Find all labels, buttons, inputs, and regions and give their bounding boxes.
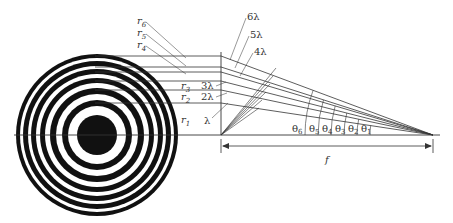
path-difference-line (221, 76, 273, 135)
path-difference-line (221, 100, 262, 135)
leader-line (146, 22, 186, 58)
path-difference-line (221, 68, 276, 135)
path-difference-label: 5λ (250, 29, 263, 40)
leader-line (240, 53, 253, 76)
radius-label: r4 (137, 39, 146, 53)
path-difference-label: λ (204, 115, 211, 126)
path-difference-label: 4λ (254, 46, 267, 57)
focal-length-arrow (221, 139, 433, 153)
angle-label: θ5 (309, 123, 320, 136)
arrowhead-right-icon (425, 143, 432, 149)
leader-line (216, 93, 227, 97)
leader-line (212, 103, 228, 118)
angle-label: θ6 (292, 123, 303, 136)
zone-plate-diagram: r6r5r4r3r2r1θ6θ5θ4θ3θ2θ16λ5λ4λ3λ2λλ f (0, 0, 453, 223)
angle-label: θ2 (348, 123, 359, 136)
leader-line (230, 18, 246, 60)
path-difference-line (221, 92, 266, 135)
angle-label: θ1 (361, 123, 372, 136)
arrowhead-left-icon (222, 143, 229, 149)
focal-length-label: f (324, 154, 331, 165)
path-difference-label: 6λ (247, 11, 260, 22)
radius-label: r1 (181, 114, 190, 128)
angle-label: θ3 (335, 123, 346, 136)
path-difference-label: 2λ (201, 91, 214, 102)
path-difference-label: 3λ (201, 80, 214, 91)
